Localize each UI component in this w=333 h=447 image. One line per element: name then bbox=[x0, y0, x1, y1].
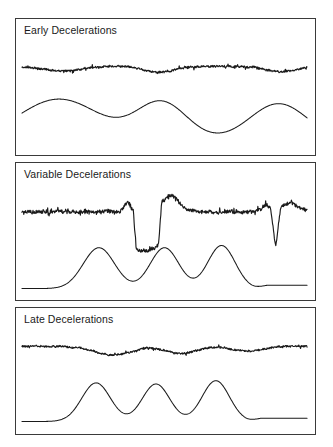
fhr-trace-early bbox=[22, 64, 307, 74]
panel-variable-decelerations: Variable Decelerations bbox=[15, 162, 316, 301]
fhr-trace-late bbox=[22, 345, 307, 356]
panel-early-decelerations: Early Decelerations bbox=[15, 18, 316, 156]
deceleration-patterns-figure: Early Decelerations Variable Deceleratio… bbox=[0, 0, 333, 447]
uc-trace-early bbox=[22, 99, 307, 133]
uc-trace-late bbox=[22, 381, 307, 422]
trace-variable bbox=[16, 163, 315, 300]
panel-late-decelerations: Late Decelerations bbox=[15, 307, 316, 435]
fhr-trace-variable bbox=[22, 194, 307, 252]
uc-trace-variable bbox=[22, 246, 307, 289]
trace-early bbox=[16, 19, 315, 155]
trace-late bbox=[16, 308, 315, 434]
